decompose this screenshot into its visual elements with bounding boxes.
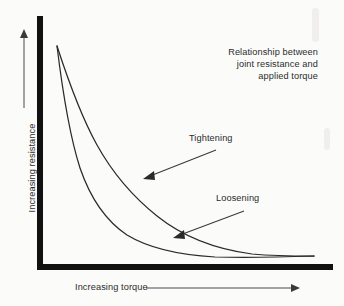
x-axis-title-arrowhead	[291, 284, 300, 292]
caption-line-2: joint resistance and	[237, 59, 318, 69]
chart-figure: Relationship betweenjoint resistance and…	[0, 0, 344, 306]
loosening-leader-line	[180, 211, 244, 235]
x-axis-line	[37, 264, 333, 270]
y-axis-title-arrowhead	[20, 29, 28, 38]
caption-line-1: Relationship between	[228, 47, 318, 57]
chart-caption: Relationship betweenjoint resistance and…	[178, 46, 318, 83]
tightening-arrowhead	[143, 171, 155, 180]
scan-artifact-2	[324, 128, 330, 150]
tightening-leader-line	[150, 150, 216, 176]
scan-artifact	[312, 8, 319, 42]
y-axis-title: Increasing resistance	[27, 103, 37, 233]
annotation-label-loosening: Loosening	[216, 193, 259, 203]
x-axis-title: Increasing torque	[75, 282, 148, 292]
caption-line-3: applied torque	[258, 71, 318, 81]
y-axis-line	[37, 16, 43, 270]
annotation-label-tightening: Tightening	[189, 133, 233, 143]
